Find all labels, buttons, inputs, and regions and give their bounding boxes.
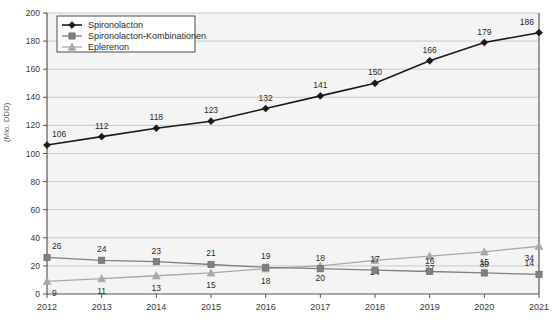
x-axis-tick-label: 2018 — [365, 302, 385, 312]
y-axis-tick-label: 140 — [26, 92, 40, 102]
data-point-value-label: 17 — [370, 254, 380, 264]
y-axis-tick-label: 40 — [31, 233, 41, 243]
data-point-marker-square — [536, 271, 542, 277]
line-chart-plot: 0204060801001201401601802002012201320142… — [0, 0, 552, 324]
y-axis-tick-label: 120 — [26, 120, 40, 130]
data-point-marker-square — [372, 267, 378, 273]
data-point-value-label: 132 — [259, 93, 273, 103]
data-point-value-label: 106 — [52, 129, 66, 139]
y-axis-tick-label: 60 — [31, 205, 41, 215]
data-point-value-label: 179 — [477, 27, 491, 37]
y-axis-tick-label: 180 — [26, 36, 40, 46]
legend-label: Spironolacton — [88, 20, 143, 30]
data-point-marker-square — [481, 270, 487, 276]
data-point-value-label: 123 — [204, 105, 218, 115]
data-point-value-label: 166 — [423, 45, 437, 55]
y-axis-tick-label: 200 — [26, 8, 40, 18]
chart-legend: SpironolactonSpironolacton-Kombinationen… — [57, 16, 206, 52]
y-axis-tick-label: 160 — [26, 64, 40, 74]
x-axis-tick-label: 2015 — [201, 302, 221, 312]
data-point-value-label: 141 — [313, 80, 327, 90]
y-axis-tick-label: 80 — [31, 177, 41, 187]
data-point-value-label: 150 — [368, 67, 382, 77]
data-point-value-label: 186 — [520, 17, 534, 27]
data-point-marker-square — [263, 264, 269, 270]
x-axis-tick-label: 2016 — [256, 302, 276, 312]
data-point-value-label: 20 — [316, 273, 326, 283]
data-point-marker-square — [208, 261, 214, 267]
x-axis-tick-label: 2019 — [420, 302, 440, 312]
data-point-marker-square — [99, 257, 105, 263]
x-axis-tick-label: 2013 — [92, 302, 112, 312]
data-point-value-label: 16 — [425, 256, 435, 266]
x-axis-tick-label: 2014 — [146, 302, 166, 312]
data-point-marker-square — [317, 266, 323, 272]
data-point-value-label: 18 — [261, 276, 271, 286]
data-point-value-label: 19 — [261, 251, 271, 261]
data-point-value-label: 15 — [206, 280, 216, 290]
data-point-value-label: 24 — [97, 244, 107, 254]
data-point-value-label: 14 — [525, 258, 535, 268]
data-point-marker-square — [427, 268, 433, 274]
data-point-marker-square — [153, 259, 159, 265]
data-point-value-label: 26 — [52, 241, 62, 251]
data-point-marker-square — [44, 254, 50, 260]
legend-label: Spironolacton-Kombinationen — [88, 31, 206, 41]
data-point-value-label: 21 — [206, 248, 216, 258]
x-axis-tick-label: 2012 — [37, 302, 57, 312]
data-point-value-label: 9 — [52, 288, 57, 298]
x-axis-tick-label: 2021 — [529, 302, 549, 312]
y-axis-tick-label: 100 — [26, 149, 40, 159]
x-axis-tick-label: 2017 — [310, 302, 330, 312]
y-axis-tick-label: 0 — [35, 289, 40, 299]
data-point-value-label: 118 — [150, 112, 164, 122]
data-point-value-label: 18 — [316, 253, 326, 263]
data-point-marker-square — [69, 33, 75, 39]
data-point-value-label: 23 — [152, 246, 162, 256]
data-point-value-label: 13 — [152, 283, 162, 293]
data-point-value-label: 11 — [97, 286, 106, 296]
y-axis-tick-label: 20 — [31, 261, 41, 271]
chart-container: (Mio. DDD) 02040608010012014016018020020… — [0, 0, 552, 324]
x-axis-tick-label: 2020 — [474, 302, 494, 312]
data-point-value-label: 112 — [95, 121, 109, 131]
legend-label: Eplerenon — [88, 42, 129, 52]
data-point-value-label: 15 — [480, 257, 490, 267]
